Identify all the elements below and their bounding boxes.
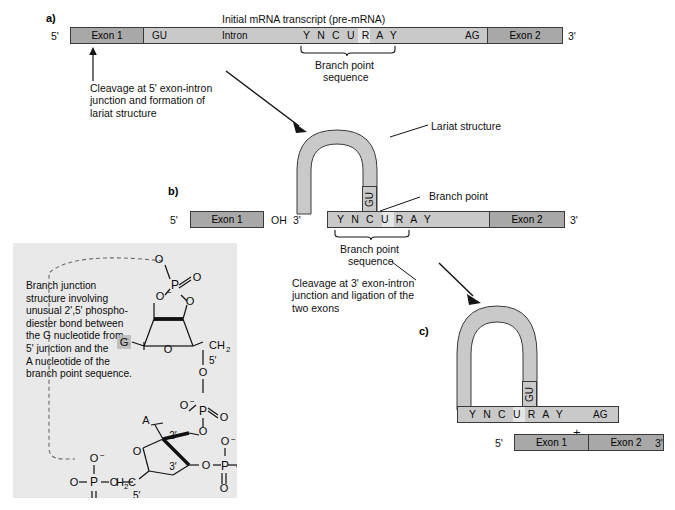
splicing-figure: a) Initial mRNA transcript (pre-mRNA) 5'… (0, 0, 675, 510)
inset-atom-charge: − (100, 451, 105, 460)
panel-a-title: Initial mRNA transcript (pre-mRNA) (222, 13, 385, 25)
inset-atom-H2C-C: C (128, 476, 136, 488)
inset-atom-P: P (221, 459, 229, 473)
panel-a-cleavage-arrow (86, 47, 100, 81)
panel-b-lariat-leader (390, 124, 430, 138)
inset-atom-O: O (156, 290, 165, 302)
panel-b-gu-stub: GU (362, 186, 377, 212)
panel-b-three-prime-left: 3' (293, 214, 301, 226)
inset-atom-O: O (164, 343, 173, 355)
panel-b-branch-point-leader (380, 196, 422, 212)
panel-c-lariat-loop (441, 296, 557, 410)
inset-atom-O: O (220, 411, 229, 423)
panel-a-transcript-bar: Exon 1 GU Intron Y N C U R A Y AG Exon 2 (70, 27, 563, 44)
panel-b-lariat-label: Lariat structure (431, 120, 501, 132)
inset-label-2prime: 2′ (169, 430, 177, 441)
panel-a-three-prime: 3' (568, 30, 576, 42)
panel-b-exon2-box: Exon 2 (489, 211, 565, 228)
panel-c-ag-label: AG (593, 406, 607, 423)
panel-label-a: a) (46, 12, 56, 24)
inset-atom-charge: − (231, 435, 236, 444)
panel-b-branch-brace (334, 229, 410, 242)
panel-b-right-bar: Y N C U R A Y Exon 2 (327, 211, 565, 228)
panel-b-step-caption: Cleavage at 3' exon-intron junction and … (292, 277, 414, 314)
panel-a-step-caption: Cleavage at 5' exon-intron junction and … (90, 82, 212, 119)
inset-atom-O: O (180, 399, 189, 411)
panel-a-intron-label: Intron (222, 27, 248, 44)
panel-a-ag-label: AG (465, 27, 479, 44)
panel-a-five-prime: 5' (51, 30, 59, 42)
inset-atom-P: P (171, 278, 179, 292)
inset-label-5prime-upper: 5′ (209, 355, 217, 366)
panel-a-exon1-box: Exon 1 (70, 27, 144, 44)
inset-atom-O: O (199, 366, 208, 378)
panel-a-gu-label: GU (152, 27, 167, 44)
inset-ellipsis: ··· (235, 460, 237, 472)
panel-a-branch-brace (300, 45, 396, 58)
inset-atom-charge: − (190, 397, 195, 406)
inset-atom-CH2-sub: 2 (226, 345, 231, 354)
inset-atom-O: O (90, 452, 99, 464)
branch-junction-inset: Branch junction structure involving unus… (13, 243, 237, 498)
inset-atom-O: O (133, 445, 142, 457)
inset-label-5prime-lower: 5′ (133, 490, 141, 498)
inset-atom-P: P (90, 475, 98, 489)
inset-atom-O: O (70, 476, 79, 488)
panel-b-oh-label: OH (271, 214, 287, 226)
panel-b-five-prime: 5' (170, 214, 178, 226)
inset-atom-O: O (110, 476, 119, 488)
panel-label-b: b) (168, 185, 178, 197)
inset-atom-O: O (221, 435, 230, 447)
panel-c-exon2-box: Exon 2 (588, 434, 664, 451)
panel-c-gu-stub: GU (522, 381, 537, 407)
inset-base-G-glyph: G (120, 336, 129, 348)
panel-c-exon1-box: Exon 1 (514, 434, 589, 451)
inset-atom-charge: − (167, 288, 172, 297)
inset-label-3prime: 3′ (169, 461, 177, 472)
inset-atom-O: O (220, 482, 229, 494)
panel-b-three-prime-right: 3' (570, 214, 578, 226)
inset-atom-O: O (199, 425, 208, 437)
panel-b-brace-label-line1: Branch point (340, 243, 399, 255)
inset-atom-CH2: CH (209, 339, 225, 351)
panel-a-brace-label-line1: Branch point (315, 59, 374, 71)
inset-atom-O: O (202, 459, 211, 471)
panel-c-gu-label: GU (524, 387, 535, 402)
inset-atom-O: O (155, 253, 164, 265)
panel-b-branch-point-label: Branch point (429, 190, 488, 202)
panel-a-branch-point-sequence: Y N C U R A Y (303, 27, 399, 44)
inset-atom-O: O (186, 295, 195, 307)
inset-base-A: A (142, 414, 150, 426)
branch-junction-structure: O P O O − O G O CH 2 5′ O O − P O O (13, 243, 237, 498)
inset-atom-P: P (199, 404, 207, 418)
panel-label-c: c) (419, 325, 429, 337)
panel-a-exon2-box: Exon 2 (487, 27, 563, 44)
panel-b-gu-label: GU (364, 192, 375, 207)
panel-b-exon1-box: Exon 1 (190, 211, 264, 228)
inset-atom-O: O (193, 271, 202, 283)
panel-c-branch-point-sequence: Y N C U R A Y (469, 406, 565, 423)
panel-b-branch-point-sequence: Y N C U R A Y (337, 211, 433, 228)
panel-c-five-prime: 5' (495, 437, 503, 449)
panel-c-mrna-bar: Exon 1 Exon 2 (514, 434, 664, 451)
panel-c-three-prime: 3' (655, 437, 663, 449)
panel-b-brace-label-line2: sequence (348, 255, 394, 267)
panel-c-intron-bar: Y N C U R A Y AG (457, 406, 619, 423)
panel-a-brace-label-line2: sequence (323, 71, 369, 83)
